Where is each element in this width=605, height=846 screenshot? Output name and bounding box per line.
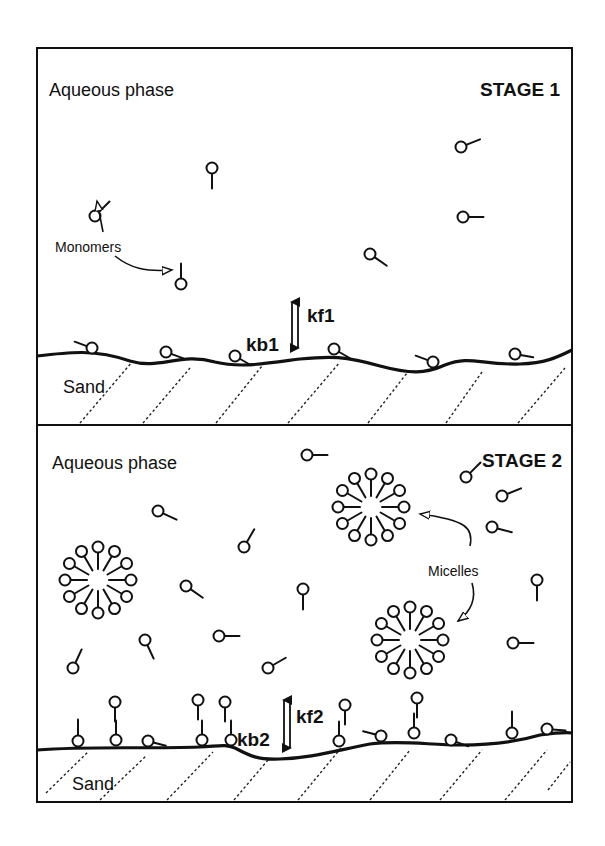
monomer-icon	[487, 522, 512, 533]
stage2-sand-label: Sand	[72, 774, 114, 794]
monomer-icon	[497, 488, 522, 501]
micelle-icon	[333, 469, 410, 546]
monomers-arrow-right	[115, 256, 172, 270]
stage2-micelles	[60, 469, 449, 679]
kf1-label: kf1	[307, 305, 335, 326]
monomer-icon	[161, 347, 184, 359]
monomer-icon	[510, 349, 534, 360]
kb2-label: kb2	[237, 729, 270, 750]
stage1-frame	[37, 48, 572, 425]
monomer-icon	[73, 720, 84, 747]
stage1-sand-surface	[37, 350, 572, 372]
monomer-icon	[111, 721, 122, 746]
surfactant-adsorption-diagram: Aqueous phase STAGE 1 Sand Monomers kf1 …	[0, 0, 605, 846]
bilayer-pair-icon	[193, 695, 208, 746]
stage2-panel: Aqueous phase STAGE 2 Sand Micelles kf2	[37, 425, 572, 802]
monomer-icon	[207, 163, 218, 189]
stage1-free-monomers	[90, 139, 484, 289]
monomer-icon	[193, 695, 204, 720]
monomer-icon	[456, 139, 481, 152]
stage1-stage-label: STAGE 1	[480, 79, 560, 100]
monomer-icon	[214, 631, 240, 642]
monomer-icon	[340, 700, 351, 725]
stage2-stage-label: STAGE 2	[482, 450, 562, 471]
monomer-icon	[140, 635, 154, 659]
monomer-icon	[181, 581, 203, 598]
micelles-label: Micelles	[428, 563, 479, 579]
monomer-icon	[176, 264, 187, 290]
stage2-phase-label: Aqueous phase	[52, 453, 177, 473]
bilayer-pair-icon	[220, 697, 237, 746]
monomer-icon	[110, 697, 121, 722]
monomer-icon	[143, 736, 166, 747]
monomer-icon	[461, 463, 481, 483]
monomers-label: Monomers	[55, 239, 121, 255]
monomer-icon	[239, 529, 255, 552]
stage1-panel: Aqueous phase STAGE 1 Sand Monomers kf1 …	[37, 48, 572, 425]
monomer-icon	[263, 658, 286, 674]
monomer-icon	[416, 356, 439, 368]
monomer-icon	[363, 731, 386, 742]
stage2-rate-arrows	[284, 700, 290, 748]
bilayer-pair-icon	[409, 693, 423, 739]
monomer-icon	[153, 506, 177, 520]
micelle-icon	[60, 542, 137, 619]
bilayer-pair-icon	[110, 697, 122, 746]
micelles-arrow-upper	[420, 514, 471, 546]
monomer-icon	[226, 721, 237, 746]
monomer-icon	[508, 638, 534, 649]
monomer-icon	[197, 721, 208, 746]
kb1-label: kb1	[246, 334, 279, 355]
monomer-icon	[298, 584, 309, 610]
monomer-icon	[220, 697, 231, 722]
micelles-arrow-lower	[458, 583, 474, 621]
stage1-phase-label: Aqueous phase	[49, 80, 174, 100]
stage2-free-monomers	[68, 450, 543, 674]
monomer-icon	[334, 722, 345, 747]
monomer-icon	[68, 649, 82, 673]
kf2-label: kf2	[296, 706, 323, 727]
monomer-icon	[302, 450, 328, 461]
monomer-icon	[532, 575, 543, 601]
monomer-icon	[507, 712, 518, 739]
micelle-icon	[372, 602, 449, 679]
stage1-rate-arrows	[292, 302, 298, 348]
bilayer-pair-icon	[334, 700, 351, 747]
monomer-icon	[458, 212, 484, 223]
stage1-sand-label: Sand	[63, 377, 105, 397]
stage1-sand-hatching	[80, 362, 565, 423]
monomer-icon	[365, 249, 387, 266]
